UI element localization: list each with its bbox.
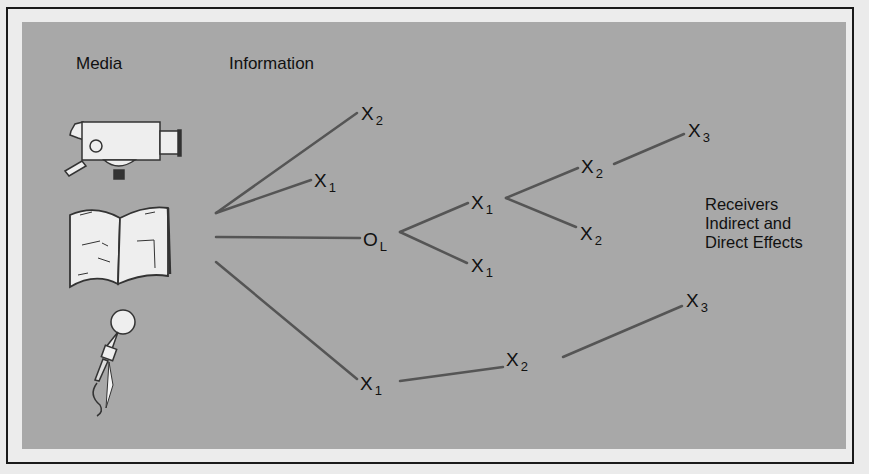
node-x1-bottom: X1 (360, 374, 382, 397)
receivers-label: Receivers Indirect and Direct Effects (705, 195, 803, 252)
node-x3-bottom: X3 (686, 291, 708, 314)
edge-ol-x1-upper (400, 203, 468, 232)
node-x2-bottom: X2 (506, 350, 528, 373)
edge-media-x2 (216, 113, 357, 213)
information-header: Information (229, 55, 314, 72)
edge-media-ol (216, 237, 360, 238)
node-x2-top: X2 (361, 104, 383, 127)
node-x1-ol-upper: X1 (471, 193, 493, 216)
node-x2-upper: X2 (581, 157, 603, 180)
node-x2-lower: X2 (580, 224, 602, 247)
movie-camera-icon (65, 122, 181, 179)
edge-x1-x2-lower (506, 198, 576, 227)
edge-ol-x1-lower (400, 232, 467, 263)
node-x1-top: X1 (314, 171, 336, 194)
media-header: Media (76, 55, 122, 72)
edge-x2-x3-bottom (563, 306, 682, 357)
edge-x1-x2-upper (506, 168, 578, 198)
node-opinion-leader: OL (363, 230, 387, 253)
edge-x2-x3-upper (614, 134, 684, 164)
edge-media-x1-lower (216, 262, 357, 379)
edge-x1-x2-bottom (400, 367, 503, 381)
microphone-icon (93, 310, 135, 416)
edge-media-x1 (216, 180, 311, 213)
open-book-icon (70, 207, 170, 287)
node-x3-upper: X3 (688, 121, 710, 144)
node-x1-ol-lower: X1 (471, 256, 493, 279)
